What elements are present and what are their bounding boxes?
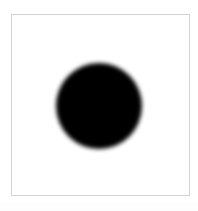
black-circle-shape (56, 63, 142, 149)
shape-layer (12, 15, 191, 197)
plot-panel (11, 14, 190, 196)
canvas-bottom-shade (0, 203, 198, 211)
figure-canvas (0, 0, 198, 211)
